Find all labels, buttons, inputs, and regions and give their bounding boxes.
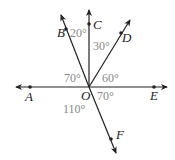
label-b: B — [57, 25, 65, 40]
label-e: E — [149, 88, 158, 103]
label-a: A — [24, 89, 33, 104]
label-f: F — [115, 127, 125, 142]
label-c: C — [93, 17, 102, 32]
angle-eof: 70° — [97, 89, 114, 103]
label-o: O — [81, 88, 91, 103]
point-f — [109, 137, 113, 141]
angle-aof: 110° — [63, 102, 86, 116]
angle-aob: 70° — [64, 71, 81, 85]
angle-cod: 30° — [93, 39, 110, 53]
angle-diagram: A B C D E F O 20° 30° 70° 60° 70° 110° — [0, 0, 175, 160]
angle-boc: 20° — [70, 26, 87, 40]
label-d: D — [121, 30, 132, 45]
angle-doe: 60° — [102, 71, 119, 85]
point-c — [87, 22, 91, 26]
